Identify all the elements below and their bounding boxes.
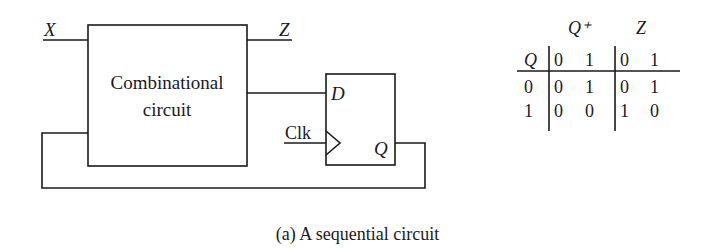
d-label: D [330, 83, 345, 104]
row1-q: 1 [524, 101, 533, 121]
combinational-label-line2: circuit [143, 99, 192, 120]
row-header-q: Q [524, 50, 537, 70]
row1-cell3: 0 [650, 101, 659, 121]
row0-cell3: 1 [650, 77, 659, 97]
x-label: X [43, 19, 57, 40]
next-state-header: Q⁺ [568, 18, 592, 38]
combinational-label-line1: Combinational [111, 72, 224, 93]
q-label: Q [374, 138, 388, 159]
col-input-1: 1 [585, 50, 594, 70]
row0-cell0: 0 [554, 77, 563, 97]
row0-cell1: 1 [585, 77, 594, 97]
combinational-block [88, 25, 247, 166]
row0-cell2: 0 [620, 77, 629, 97]
clk-label: Clk [285, 123, 311, 143]
z-label: Z [279, 19, 290, 40]
row1-cell1: 0 [585, 101, 594, 121]
col-input-0: 0 [554, 50, 563, 70]
sequential-circuit-diagram: X Z Combinational circuit D Clk Q Q⁺ Z Q… [0, 0, 715, 249]
row0-q: 0 [524, 77, 533, 97]
clock-edge-icon [326, 131, 340, 155]
z-output-header: Z [636, 18, 647, 38]
row1-cell0: 0 [554, 101, 563, 121]
col-input-3: 1 [650, 50, 659, 70]
col-input-2: 0 [620, 50, 629, 70]
feedback-wire [42, 133, 425, 188]
row1-cell2: 1 [620, 101, 629, 121]
state-table: Q⁺ Z Q 0 1 0 1 0 0 1 0 1 1 0 0 1 0 [517, 18, 680, 131]
figure-caption: (a) A sequential circuit [0, 224, 715, 245]
